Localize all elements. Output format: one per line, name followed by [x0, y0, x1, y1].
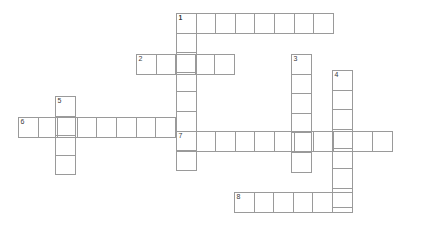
- cell-letter: [177, 92, 196, 111]
- cell[interactable]: [254, 13, 275, 34]
- cell[interactable]: [332, 90, 353, 111]
- cell[interactable]: [372, 131, 393, 152]
- cell-letter: [177, 14, 196, 33]
- cell-letter: [292, 94, 311, 113]
- cell-letter: [236, 132, 255, 151]
- cell[interactable]: [116, 117, 137, 138]
- cell[interactable]: [291, 74, 312, 95]
- cell[interactable]: [332, 168, 353, 189]
- cell[interactable]: [291, 93, 312, 114]
- cell[interactable]: 5: [55, 96, 76, 117]
- cell-letter: [19, 118, 38, 137]
- cell-letter: [255, 132, 274, 151]
- cell[interactable]: [313, 13, 334, 34]
- cell[interactable]: [96, 117, 117, 138]
- cell[interactable]: [332, 109, 353, 130]
- cell-letter: [39, 118, 58, 137]
- cell[interactable]: [215, 131, 236, 152]
- cell-letter: [78, 118, 97, 137]
- cell[interactable]: [156, 54, 177, 75]
- cell[interactable]: [235, 131, 256, 152]
- cell[interactable]: 7: [176, 131, 197, 152]
- cell[interactable]: [291, 152, 312, 173]
- cell-letter: [255, 14, 274, 33]
- cell[interactable]: 2: [136, 54, 157, 75]
- cell-letter: [314, 132, 333, 151]
- cell[interactable]: [196, 13, 217, 34]
- cell[interactable]: 4: [332, 70, 353, 91]
- cell[interactable]: [215, 13, 236, 34]
- cell[interactable]: [176, 72, 197, 93]
- cell-letter: [295, 14, 314, 33]
- cell-letter: [313, 193, 332, 212]
- entry-6-across[interactable]: 6: [18, 117, 176, 138]
- cell-letter: [292, 75, 311, 94]
- cell[interactable]: [313, 131, 334, 152]
- cell[interactable]: [155, 117, 176, 138]
- cell[interactable]: [214, 54, 235, 75]
- cell-letter: [236, 14, 255, 33]
- cell-letter: [333, 149, 352, 168]
- cell[interactable]: [254, 131, 275, 152]
- cell-letter: [373, 132, 392, 151]
- cell-letter: [156, 118, 175, 137]
- entry-1-across[interactable]: 1: [176, 13, 334, 34]
- cell-letter: [97, 118, 116, 137]
- cell-letter: [275, 14, 294, 33]
- cell-letter: [333, 71, 352, 90]
- entry-2-across[interactable]: 2: [136, 54, 235, 75]
- cell-letter: [56, 156, 75, 175]
- cell[interactable]: [274, 131, 295, 152]
- cell-letter: [117, 118, 136, 137]
- cell-letter: [333, 169, 352, 188]
- entry-8-across[interactable]: 8: [234, 192, 353, 213]
- cell-letter: [56, 97, 75, 116]
- cell[interactable]: [352, 131, 373, 152]
- cell[interactable]: [55, 135, 76, 156]
- cell-letter: [292, 114, 311, 133]
- cell[interactable]: [294, 13, 315, 34]
- cell[interactable]: [273, 192, 294, 213]
- cell[interactable]: [312, 192, 333, 213]
- cell[interactable]: [196, 131, 217, 152]
- cell-letter: [157, 55, 176, 74]
- cell[interactable]: [38, 117, 59, 138]
- cell-letter: [177, 34, 196, 53]
- cell[interactable]: 6: [18, 117, 39, 138]
- cell-letter: [215, 55, 234, 74]
- cell[interactable]: [332, 192, 353, 213]
- cell[interactable]: [176, 111, 197, 132]
- cell[interactable]: [136, 117, 157, 138]
- cell[interactable]: [176, 91, 197, 112]
- cell[interactable]: 1: [176, 13, 197, 34]
- cell[interactable]: [55, 155, 76, 176]
- cell[interactable]: [176, 150, 197, 171]
- cell-letter: [274, 193, 293, 212]
- cell[interactable]: [235, 13, 256, 34]
- cell[interactable]: [293, 192, 314, 213]
- cell[interactable]: [195, 54, 216, 75]
- crossword-grid[interactable]: 112345678: [0, 0, 432, 227]
- cell-letter: [177, 151, 196, 170]
- cell-letter: [333, 110, 352, 129]
- entry-7-across[interactable]: 7: [176, 131, 393, 152]
- entry-3-down[interactable]: 3: [291, 54, 312, 173]
- cell-letter: [176, 55, 195, 74]
- cell-letter: [314, 14, 333, 33]
- cell[interactable]: 8: [234, 192, 255, 213]
- cell[interactable]: [294, 131, 315, 152]
- cell[interactable]: [77, 117, 98, 138]
- cell[interactable]: [57, 117, 78, 138]
- cell[interactable]: [274, 13, 295, 34]
- cell[interactable]: [333, 131, 354, 152]
- cell-letter: [295, 132, 314, 151]
- cell-letter: [197, 132, 216, 151]
- cell-letter: [353, 132, 372, 151]
- cell-letter: [58, 118, 77, 137]
- cell-letter: [255, 193, 274, 212]
- cell-letter: [333, 91, 352, 110]
- cell[interactable]: [254, 192, 275, 213]
- cell[interactable]: [175, 54, 196, 75]
- cell[interactable]: [176, 33, 197, 54]
- cell[interactable]: 3: [291, 54, 312, 75]
